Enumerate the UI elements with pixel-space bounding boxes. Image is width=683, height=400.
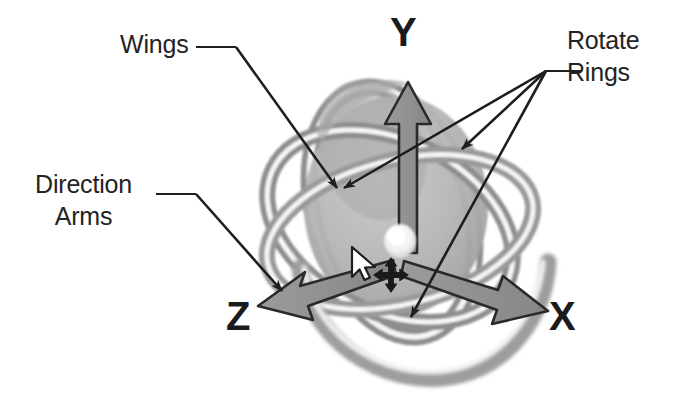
diagram-canvas: Wings Rotate Rings Direction Arms Y Z X xyxy=(0,0,683,400)
axis-label-y: Y xyxy=(390,12,417,52)
callout-label-rotate-rings: Rotate Rings xyxy=(567,24,639,88)
axis-label-x: X xyxy=(549,296,576,336)
center-handle[interactable] xyxy=(384,224,416,258)
axis-label-z: Z xyxy=(226,296,250,336)
callout-label-direction-arms: Direction Arms xyxy=(6,168,161,232)
callout-label-wings: Wings xyxy=(120,28,188,60)
